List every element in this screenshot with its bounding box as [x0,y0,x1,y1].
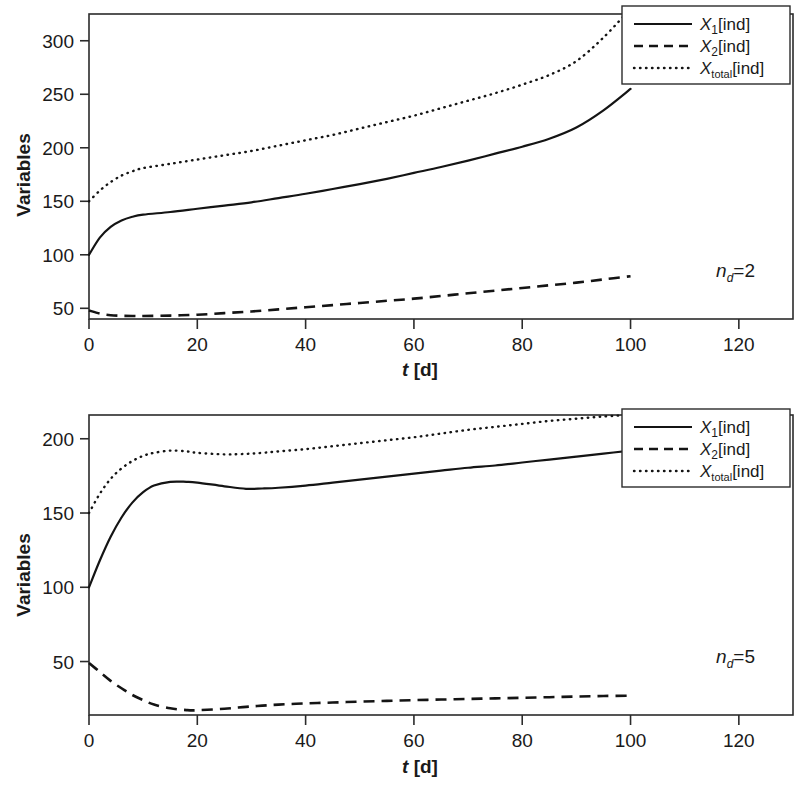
y-axis-title-bottom: Variables [13,533,34,616]
annotation-nd-bottom: nd=5 [716,646,755,671]
legend-label-x2-bottom: X2[ind] [699,440,750,462]
curve-dashed [89,276,631,316]
curve-solid [89,89,631,255]
y-tick-label: 100 [42,245,74,266]
y-tick-marks-top [80,41,89,309]
y-tick-label: 150 [42,191,74,212]
y-tick-label: 50 [53,652,74,673]
x-tick-label: 0 [84,730,95,751]
legend-label-x1-top: X1[ind] [699,15,750,37]
curve-dotted [89,9,631,202]
legend-label-x1-bottom: X1[ind] [699,418,750,440]
x-axis-title-top: t [d] [402,359,438,380]
y-tick-labels-top: 50100150200250300 [42,31,74,320]
x-tick-label: 80 [512,334,533,355]
legend-bottom: X1[ind] X2[ind] Xtotal[ind] [622,409,790,487]
x-tick-label: 40 [295,334,316,355]
x-tick-label: 120 [723,334,755,355]
x-tick-label: 100 [615,730,647,751]
x-tick-label: 100 [615,334,647,355]
y-tick-label: 200 [42,429,74,450]
x-tick-label: 20 [187,730,208,751]
annotation-nd-top: nd=2 [716,260,755,285]
legend-label-xtotal-top: Xtotal[ind] [699,59,764,80]
chart-panel-top: 50100150200250300 020406080100120 Variab… [0,0,810,395]
legend-label-x2-top: X2[ind] [699,37,750,59]
curve-solid [89,451,631,588]
y-tick-label: 300 [42,31,74,52]
x-tick-marks-top [89,319,739,329]
figure-container: 50100150200250300 020406080100120 Variab… [0,0,810,791]
y-tick-marks-bottom [80,439,89,662]
y-tick-label: 250 [42,84,74,105]
chart-panel-bottom: 50100150200 020406080100120 Variables t … [0,395,810,791]
y-tick-labels-bottom: 50100150200 [42,429,74,673]
data-curves-top [89,9,631,316]
x-tick-label: 60 [403,334,424,355]
x-tick-label: 80 [512,730,533,751]
y-tick-label: 150 [42,503,74,524]
chart-svg-top: 50100150200250300 020406080100120 Variab… [0,0,810,395]
y-axis-title-top: Variables [13,133,34,216]
x-tick-labels-top: 020406080100120 [84,334,755,355]
y-tick-label: 200 [42,138,74,159]
curve-dashed [89,663,631,710]
legend-top: X1[ind] X2[ind] Xtotal[ind] [622,6,790,84]
legend-label-xtotal-bottom: Xtotal[ind] [699,462,764,483]
y-tick-label: 100 [42,577,74,598]
chart-svg-bottom: 50100150200 020406080100120 Variables t … [0,395,810,791]
data-curves-bottom [89,415,631,710]
x-axis-title-bottom: t [d] [402,756,438,777]
curve-dotted [89,415,631,513]
x-tick-label: 120 [723,730,755,751]
x-tick-label: 60 [403,730,424,751]
x-tick-marks-bottom [89,715,739,725]
x-tick-labels-bottom: 020406080100120 [84,730,755,751]
y-tick-label: 50 [53,298,74,319]
x-tick-label: 0 [84,334,95,355]
x-tick-label: 40 [295,730,316,751]
x-tick-label: 20 [187,334,208,355]
